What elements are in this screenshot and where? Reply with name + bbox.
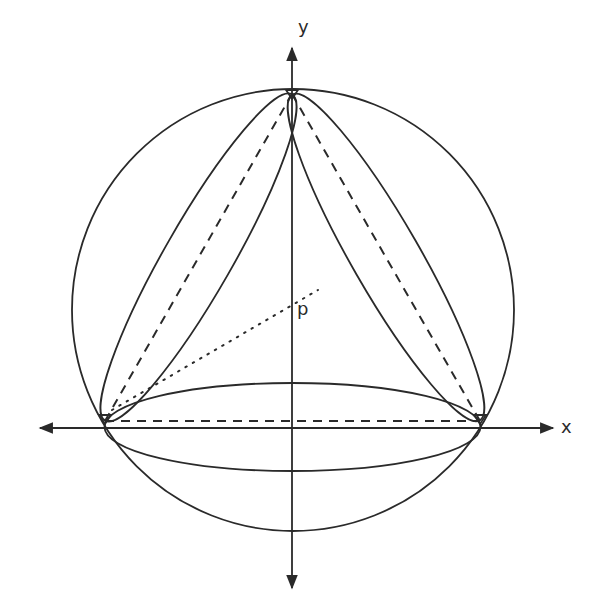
point-label-p: p: [297, 300, 308, 318]
x-axis-label: x: [561, 418, 572, 436]
dotted-segment: [112, 290, 318, 410]
y-axis-label: y: [298, 18, 309, 36]
dashed-edge-left: [105, 94, 292, 421]
dashed-edge-right: [292, 94, 480, 421]
outer-circle: [72, 89, 514, 531]
